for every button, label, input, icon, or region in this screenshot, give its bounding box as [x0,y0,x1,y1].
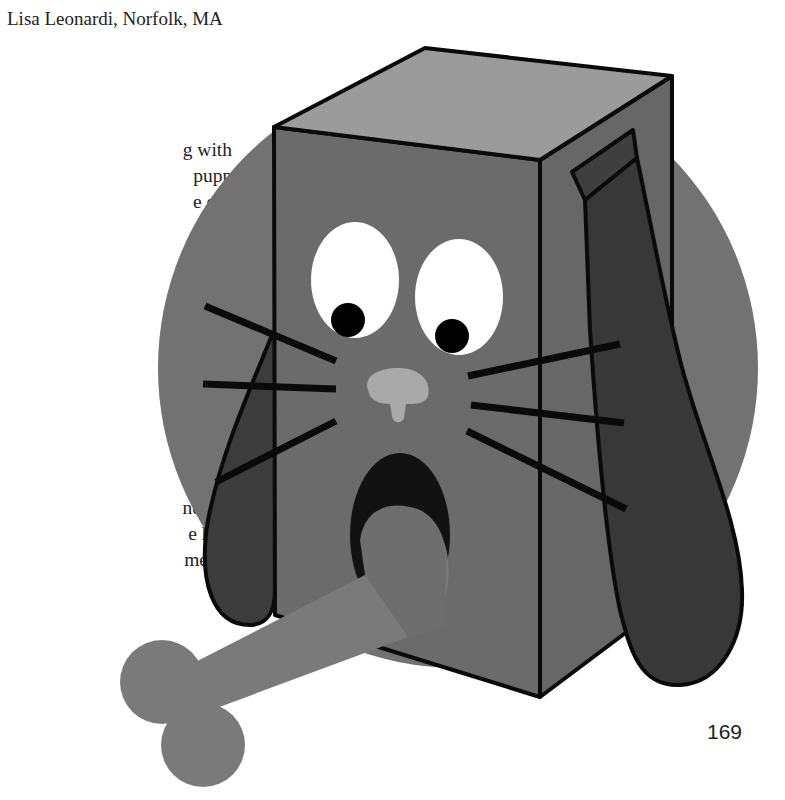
right-eye-pupil [435,319,469,353]
page-number: 169 [707,720,742,744]
left-eye-pupil [331,303,365,337]
puppy-box-illustration [0,0,785,800]
